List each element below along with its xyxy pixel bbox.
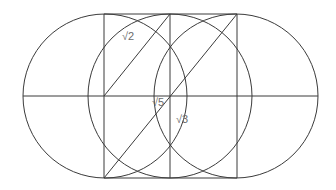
diagram-canvas: √2 √5 √3 (0, 0, 336, 190)
geometry-figure: √2 √5 √3 (0, 0, 336, 190)
sqrt3-label: √3 (176, 113, 188, 125)
sqrt2-diagonal-line (104, 14, 170, 96)
sqrt5-label: √5 (152, 96, 164, 108)
sqrt2-label: √2 (122, 30, 134, 42)
